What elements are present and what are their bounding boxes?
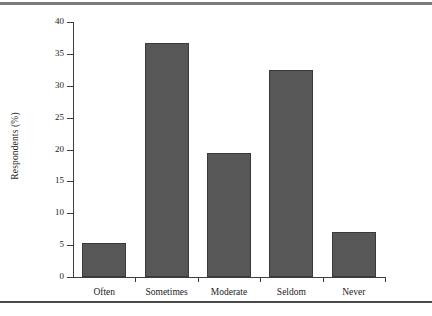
bar-often[interactable] <box>82 243 126 277</box>
y-axis-tick-label: 5 <box>60 238 65 251</box>
x-axis-label-often: Often <box>73 286 135 299</box>
y-axis-tick-label: 0 <box>60 270 65 283</box>
y-axis-tick-mark <box>67 22 73 23</box>
y-axis-tick-label: 20 <box>55 143 64 156</box>
y-axis-tick-label: 10 <box>55 206 64 219</box>
bar-moderate[interactable] <box>207 153 251 277</box>
y-axis-tick-mark <box>67 150 73 151</box>
bar-sometimes[interactable] <box>145 43 189 277</box>
bar-chart-figure: Respondents (%) 0510152025303540OftenSom… <box>0 6 432 300</box>
y-axis-line <box>73 22 74 277</box>
x-axis-label-never: Never <box>323 286 385 299</box>
y-axis-title: Respondents (%) <box>10 86 26 206</box>
x-axis-tick-mark <box>260 277 261 282</box>
y-axis-tick-label: 30 <box>55 79 64 92</box>
y-axis-tick-mark <box>67 118 73 119</box>
y-axis-tick-mark <box>67 181 73 182</box>
plot-area: 0510152025303540OftenSometimesModerateSe… <box>73 22 385 277</box>
y-axis-tick-label: 25 <box>55 111 64 124</box>
y-axis-tick-mark <box>67 245 73 246</box>
x-axis-tick-mark <box>385 277 386 282</box>
bar-never[interactable] <box>332 232 376 277</box>
y-axis-tick-mark <box>67 213 73 214</box>
x-axis-tick-mark <box>198 277 199 282</box>
x-axis-label-moderate: Moderate <box>198 286 260 299</box>
x-axis-label-seldom: Seldom <box>260 286 322 299</box>
y-axis-tick-mark <box>67 54 73 55</box>
x-axis-tick-mark <box>323 277 324 282</box>
y-axis-tick-label: 15 <box>55 174 64 187</box>
y-axis-tick-mark <box>67 86 73 87</box>
x-axis-line <box>73 277 385 278</box>
y-axis-tick-label: 40 <box>55 15 64 28</box>
x-axis-label-sometimes: Sometimes <box>135 286 197 299</box>
x-axis-tick-mark <box>135 277 136 282</box>
bar-seldom[interactable] <box>269 70 313 277</box>
page-rule-bottom <box>0 301 432 303</box>
page-rule-top <box>0 2 432 5</box>
y-axis-tick-label: 35 <box>55 47 64 60</box>
y-axis-tick-mark <box>67 277 73 278</box>
